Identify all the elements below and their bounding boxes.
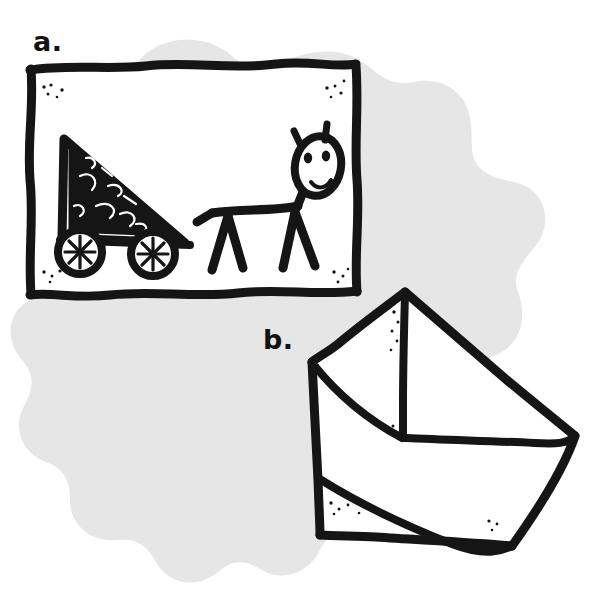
frame-edge-right [356,66,358,292]
panel-b-group [312,292,575,552]
panel-label-a: a. [33,28,62,55]
panel-a-group [29,63,358,296]
cart-wheel-right [131,232,175,276]
figure-root: a. b. [0,0,608,591]
frame-edge-left [29,69,32,294]
horse-body [212,206,298,213]
horse-ear-right [325,124,327,140]
envelope-flap-center-crease [403,293,405,438]
panel-label-b: b. [263,326,294,353]
horse-eye-right [322,151,330,162]
frame-edge-bottom [30,291,357,296]
cart-wheel-left [58,230,102,274]
horse-eye-left [304,153,312,164]
figure-illustration [0,0,608,591]
